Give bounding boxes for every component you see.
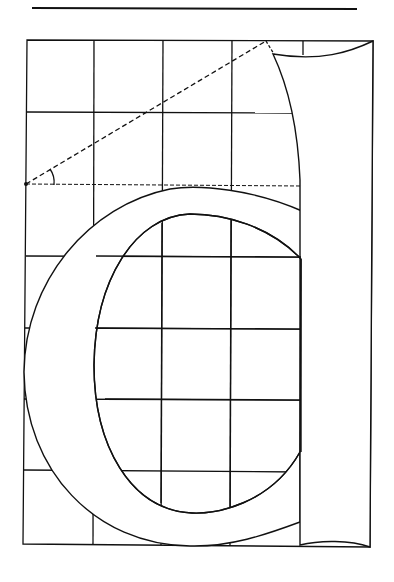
letter-d-construction-diagram <box>0 0 394 582</box>
pivot-point <box>24 182 28 186</box>
top-rule <box>32 8 357 9</box>
